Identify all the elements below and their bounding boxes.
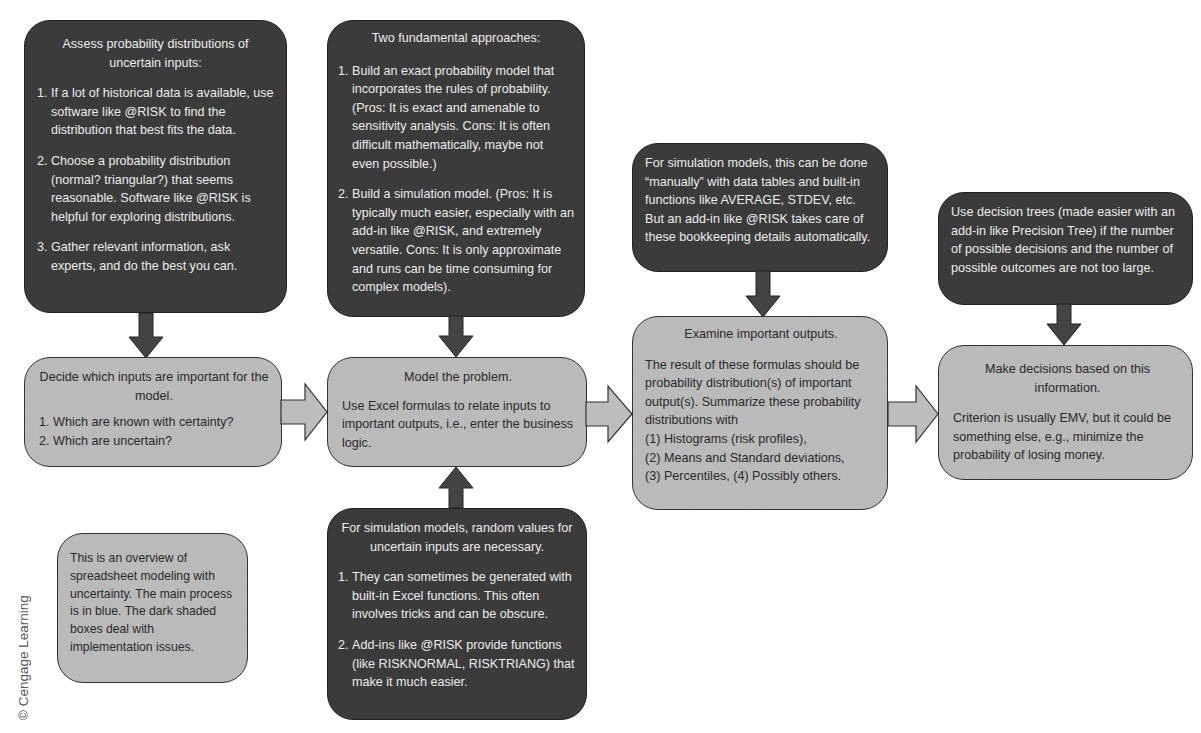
model-body: Use Excel formulas to relate inputs to i… [342,397,574,453]
assess-heading: Assess probability distributions of unce… [37,35,274,72]
arrow-down-icon [1046,304,1082,346]
examine-heading: Examine important outputs. [645,325,877,344]
copyright-label: © Cengage Learning [16,595,31,720]
decide-inputs-heading: Decide which inputs are important for th… [39,368,269,405]
random-values-box: For simulation models, random values for… [327,508,587,720]
random-values-item-2: 2.Add-ins like @RISK provide functions (… [338,636,576,692]
examine-outputs-box: Examine important outputs. The result of… [632,316,888,510]
overview-note-body: This is an overview of spreadsheet model… [70,550,237,657]
bookkeeping-box: For simulation models, this can be done … [632,143,888,272]
decision-trees-box: Use decision trees (made easier with an … [938,192,1193,305]
decision-trees-body: Use decision trees (made easier with an … [951,203,1182,277]
examine-line-1: (1) Histograms (risk profiles), [645,430,877,449]
random-values-heading: For simulation models, random values for… [338,519,576,556]
examine-line-3: (3) Percentiles, (4) Possibly others. [645,467,877,486]
examine-body: The result of these formulas should be p… [645,356,877,430]
approaches-heading: Two fundamental approaches: [338,29,574,48]
model-heading: Model the problem. [342,368,574,387]
decide-inputs-box: Decide which inputs are important for th… [24,357,282,467]
make-decisions-body: Criterion is usually EMV, but it could b… [953,409,1182,465]
make-decisions-heading: Make decisions based on this information… [953,360,1182,397]
overview-note-box: This is an overview of spreadsheet model… [57,533,248,683]
make-decisions-box: Make decisions based on this information… [938,345,1193,480]
bookkeeping-body: For simulation models, this can be done … [645,154,877,247]
arrow-right-icon [888,385,940,443]
assess-item-1: 1.If a lot of historical data is availab… [37,84,274,140]
assess-item-2: 2.Choose a probability distribution (nor… [37,152,274,226]
arrow-down-icon [745,271,781,318]
two-approaches-box: Two fundamental approaches: 1.Build an e… [327,20,585,317]
examine-line-2: (2) Means and Standard deviations, [645,449,877,468]
arrow-down-icon [438,316,474,358]
approaches-item-2: 2.Build a simulation model. (Pros: It is… [338,185,574,297]
arrow-right-icon [586,385,634,443]
arrow-right-icon [281,383,329,441]
assess-distributions-box: Assess probability distributions of unce… [24,20,287,313]
model-problem-box: Model the problem. Use Excel formulas to… [327,357,587,467]
decide-inputs-item-2: 2.Which are uncertain? [39,432,269,451]
arrow-up-icon [438,467,474,509]
approaches-item-1: 1.Build an exact probability model that … [338,62,574,174]
random-values-item-1: 1.They can sometimes be generated with b… [338,568,576,624]
arrow-down-icon [128,313,164,359]
assess-item-3: 3.Gather relevant information, ask exper… [37,238,274,275]
decide-inputs-item-1: 1.Which are known with certainty? [39,413,269,432]
